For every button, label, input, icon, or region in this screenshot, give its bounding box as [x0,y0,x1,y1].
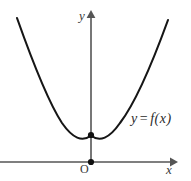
graph-svg [0,0,191,181]
curve-equation-label: y=f(x) [131,112,172,126]
y-axis-arrowhead [87,10,96,18]
curve-label-rhs: f(x) [150,111,171,126]
origin-label: O [80,163,89,175]
figure-canvas: y x O y=f(x) [0,0,191,181]
y-axis-label: y [79,9,85,22]
vertex-point [88,132,94,138]
curve-label-lhs: y [131,111,138,126]
x-axis-label: x [166,163,172,176]
curve-label-operator: = [138,111,150,126]
